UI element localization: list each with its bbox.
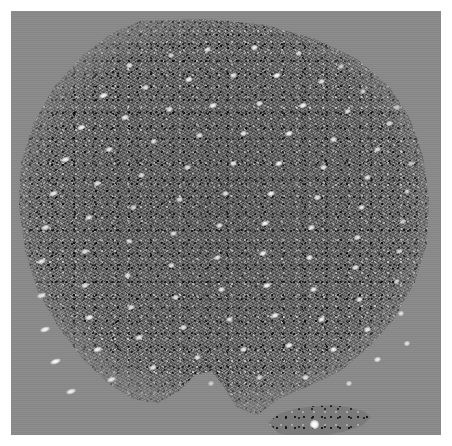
diffraction-spot <box>343 108 351 115</box>
diffraction-spot <box>393 278 400 285</box>
diffraction-spot <box>229 72 237 79</box>
diffraction-spot <box>403 340 410 347</box>
diffraction-spot <box>305 254 313 261</box>
diffraction-spot <box>48 189 58 197</box>
diffraction-spot <box>141 84 149 91</box>
diffraction-spot <box>80 247 89 254</box>
diffraction-spot <box>193 354 201 361</box>
diffraction-spot <box>215 222 223 229</box>
diffraction-spot <box>284 341 293 348</box>
diffraction-spot <box>98 91 108 99</box>
diffraction-spot <box>301 374 309 381</box>
micrograph-plate <box>11 11 441 435</box>
diffraction-spot <box>137 172 145 179</box>
diffraction-spot <box>255 374 263 381</box>
diffraction-spot <box>355 296 363 303</box>
diffraction-spot <box>229 160 237 167</box>
diffraction-spot <box>123 272 131 279</box>
diffraction-spot <box>284 129 293 136</box>
diffraction-spot <box>213 254 221 261</box>
diffraction-spot <box>149 138 157 145</box>
diffraction-spot <box>353 234 361 241</box>
diffraction-spot <box>373 146 381 153</box>
diffraction-spot <box>120 113 129 120</box>
diffraction-spot <box>208 101 217 108</box>
diffraction-spot <box>167 52 174 59</box>
diffraction-spot <box>337 63 344 70</box>
diffraction-spot <box>184 75 193 82</box>
diffraction-spot <box>125 62 133 69</box>
diffraction-spot <box>126 303 135 310</box>
diffraction-spot <box>203 46 211 53</box>
diffraction-spot <box>262 281 271 288</box>
diffraction-spot <box>272 71 281 78</box>
diffraction-spot <box>134 333 143 340</box>
diffraction-spot <box>92 345 102 353</box>
diffraction-spot <box>357 204 365 211</box>
diffraction-spot <box>76 123 86 131</box>
diffraction-spot <box>359 88 366 95</box>
diffraction-spot <box>329 346 337 353</box>
diffraction-spot <box>171 294 179 301</box>
diffraction-spot <box>373 356 381 363</box>
diffraction-spot <box>363 174 371 181</box>
diffraction-spot <box>92 179 101 186</box>
diffraction-spot <box>255 100 263 107</box>
diffraction-spot <box>250 44 258 51</box>
diffraction-spot <box>36 257 46 265</box>
diffraction-spot <box>393 104 400 111</box>
diffraction-spot <box>363 326 371 333</box>
diffraction-spot <box>207 380 214 387</box>
diffraction-spot <box>40 223 50 231</box>
diffraction-spot <box>39 325 50 333</box>
diffraction-spot <box>106 375 116 383</box>
diffraction-spot <box>60 155 70 163</box>
diffraction-spot <box>104 145 113 152</box>
diffraction-spot <box>307 224 315 231</box>
diffraction-spot <box>167 262 175 269</box>
diffraction-spot <box>407 160 414 167</box>
diffraction-spot <box>329 136 337 143</box>
diffraction-spot <box>80 281 89 288</box>
diffraction-spot <box>183 164 191 171</box>
diffraction-spot <box>385 120 393 127</box>
diffraction-spot <box>217 286 225 293</box>
diffraction-spot <box>195 132 203 139</box>
diffraction-spot <box>179 324 187 331</box>
diffraction-spot <box>36 291 46 299</box>
diffraction-spot <box>266 189 275 196</box>
diffraction-spot <box>239 130 247 137</box>
diffraction-spot <box>175 196 183 203</box>
diffraction-spot <box>274 159 283 166</box>
diffraction-spot <box>129 204 137 211</box>
diffraction-spot-lattice <box>11 11 441 435</box>
diffraction-spot <box>169 230 177 237</box>
diffraction-spot <box>397 310 404 317</box>
diffraction-spot <box>65 387 76 395</box>
diffraction-spot <box>345 380 352 387</box>
diffraction-spot <box>319 164 327 171</box>
diffraction-spot <box>309 286 317 293</box>
diffraction-spot <box>148 363 157 370</box>
diffraction-spot <box>84 213 93 220</box>
diffraction-spot <box>313 194 321 201</box>
diffraction-spot <box>298 101 307 108</box>
diffraction-spot <box>270 311 279 318</box>
diffraction-spot <box>317 316 325 323</box>
diffraction-spot <box>399 218 406 225</box>
diffraction-spot <box>403 188 410 195</box>
diffraction-spot <box>125 238 133 245</box>
diffraction-spot <box>221 190 229 197</box>
diffraction-spot <box>395 248 402 255</box>
diffraction-spot <box>165 106 173 113</box>
diffraction-spot <box>260 219 269 226</box>
diffraction-spot <box>317 78 325 85</box>
diffraction-spot <box>84 313 94 321</box>
diffraction-spot <box>49 357 61 365</box>
diffraction-spot <box>239 346 247 353</box>
micrograph-figure <box>0 0 452 446</box>
diffraction-spot <box>351 264 359 271</box>
diffraction-spot <box>295 50 302 57</box>
diffraction-spot <box>225 316 233 323</box>
diffraction-spot <box>258 249 267 256</box>
